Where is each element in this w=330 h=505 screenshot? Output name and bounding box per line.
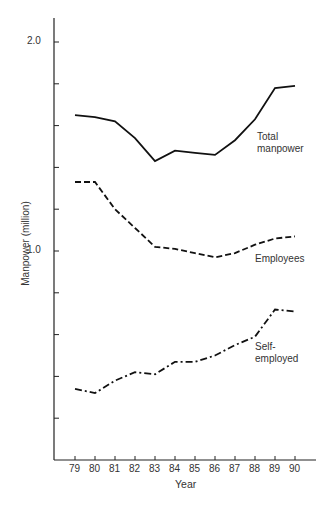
series-label-self-employed: Self- employed — [255, 341, 298, 365]
x-tick-label: 85 — [189, 463, 200, 475]
x-tick-label: 90 — [289, 463, 300, 475]
series-label-employees: Employees — [255, 253, 304, 265]
y-ticks — [54, 42, 59, 418]
x-tick-label: 87 — [229, 463, 240, 475]
x-tick-label: 80 — [89, 463, 100, 475]
x-tick-label: 89 — [269, 463, 280, 475]
x-tick-label: 86 — [209, 463, 220, 475]
x-tick-label: 88 — [249, 463, 260, 475]
x-tick-label: 79 — [69, 463, 80, 475]
x-axis-title: Year — [175, 478, 196, 490]
x-tick-label: 81 — [109, 463, 120, 475]
series-line-employees — [75, 182, 295, 257]
x-tick-label: 82 — [129, 463, 140, 475]
x-tick-label: 83 — [149, 463, 160, 475]
y-axis-title: Manpower (million) — [20, 189, 31, 299]
y-tick-label-2: 2.0 — [27, 35, 41, 47]
series-label-total: Total manpower — [257, 131, 304, 155]
x-tick-label: 84 — [169, 463, 180, 475]
